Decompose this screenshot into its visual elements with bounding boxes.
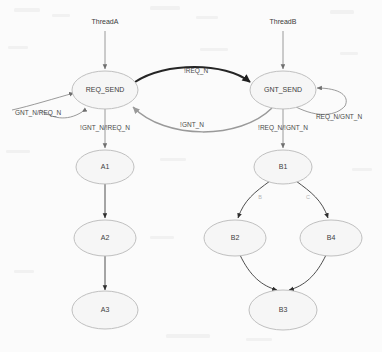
node-b3[interactable]: B3 [249, 290, 317, 330]
edge-label-req-to-a1: !GNT_N/!REQ_N [80, 124, 130, 132]
edge-b1-to-b4 [296, 181, 328, 218]
node-gnt-send[interactable]: GNT_SEND [250, 71, 316, 109]
node-b4[interactable]: B4 [300, 220, 362, 256]
edge-b2-to-b3 [240, 255, 277, 290]
node-b1-label: B1 [279, 163, 288, 170]
node-b2[interactable]: B2 [204, 220, 266, 256]
node-a1-label: A1 [101, 163, 110, 170]
node-a2-label: A2 [101, 234, 110, 241]
node-req-send-label: REQ_SEND [86, 86, 125, 94]
node-b4-label: B4 [327, 234, 336, 241]
edge-label-gnt-to-b1: !REQ_N/!GNT_N [258, 124, 308, 132]
state-diagram: REQ_SEND GNT_SEND A1 A2 A3 B1 B2 B4 [0, 0, 382, 352]
node-b2-label: B2 [231, 234, 240, 241]
edge-label-req-to-gnt: !REQ_N [184, 67, 209, 75]
edge-label-b1-to-b4: C [306, 194, 310, 200]
node-b1[interactable]: B1 [254, 150, 312, 184]
edge-b4-to-b3 [289, 255, 326, 290]
edge-b1-to-b2 [238, 181, 270, 218]
edge-label-gnt-self: REQ_N/GNT_N [316, 113, 363, 121]
edge-label-b1-to-b2: B [258, 194, 262, 200]
node-a1[interactable]: A1 [76, 150, 134, 184]
node-a3[interactable]: A3 [72, 291, 138, 329]
edge-gnt-send-to-req-send [133, 107, 272, 132]
node-req-send[interactable]: REQ_SEND [72, 71, 138, 109]
state-diagram-canvas: REQ_SEND GNT_SEND A1 A2 A3 B1 B2 B4 [0, 0, 382, 352]
node-b3-label: B3 [279, 306, 288, 313]
node-a3-label: A3 [101, 306, 110, 313]
node-gnt-send-label: GNT_SEND [264, 86, 302, 94]
node-a2[interactable]: A2 [74, 220, 136, 256]
entry-label-threadB: ThreadB [270, 18, 297, 25]
edge-label-req-self: GNT_N/REQ_N [15, 109, 62, 117]
edge-label-gnt-to-req: !GNT_N [180, 121, 204, 129]
entry-label-threadA: ThreadA [92, 18, 119, 25]
